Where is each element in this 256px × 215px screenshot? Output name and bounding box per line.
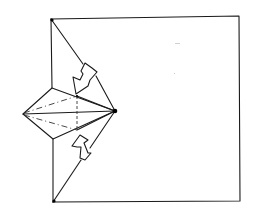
corner-dot-bottom-left: [52, 199, 55, 202]
kite-lower-inner-edge: [77, 111, 115, 130]
upper-valley-fold: [24, 96, 77, 113]
center-point-dot: [113, 109, 118, 114]
upper-diagonal-crease-2: [96, 76, 115, 111]
origami-diagram: [0, 0, 256, 215]
kite-upper-inner-edge: [77, 96, 115, 111]
upper-diagonal-crease: [51, 19, 83, 64]
speck: [175, 43, 180, 44]
upper-fold-arrow-icon: [73, 63, 97, 94]
lower-fold-arrow-icon: [72, 135, 91, 160]
kite-center-line: [23, 111, 115, 114]
lower-valley-fold: [24, 115, 77, 130]
lower-diagonal-crease: [53, 160, 81, 202]
left-edge-upper: [51, 19, 52, 88]
corner-dot-top-left: [50, 18, 53, 21]
paper-outline: [51, 16, 240, 202]
speck: [174, 73, 175, 74]
upper-intersection-dot: [76, 95, 78, 97]
